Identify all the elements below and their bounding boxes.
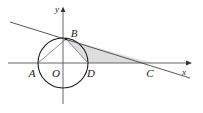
- secant-line-bc: [10, 22, 190, 78]
- figure-canvas: A O D B C y x: [0, 0, 203, 113]
- point-label-d: D: [86, 67, 95, 79]
- y-axis-label: y: [54, 4, 59, 14]
- point-label-o: O: [52, 67, 60, 79]
- x-axis-label: x: [181, 67, 186, 77]
- point-label-c: C: [146, 67, 154, 79]
- point-label-b: B: [71, 27, 78, 39]
- x-axis-arrow-icon: [186, 60, 192, 65]
- point-label-a: A: [28, 67, 36, 79]
- geometry-figure: A O D B C y x: [0, 0, 203, 113]
- chord-a-b: [38, 39, 66, 63]
- y-axis-arrow-icon: [61, 7, 66, 13]
- shaded-triangle-region: [66, 39, 152, 63]
- point-marker-b: [65, 38, 68, 41]
